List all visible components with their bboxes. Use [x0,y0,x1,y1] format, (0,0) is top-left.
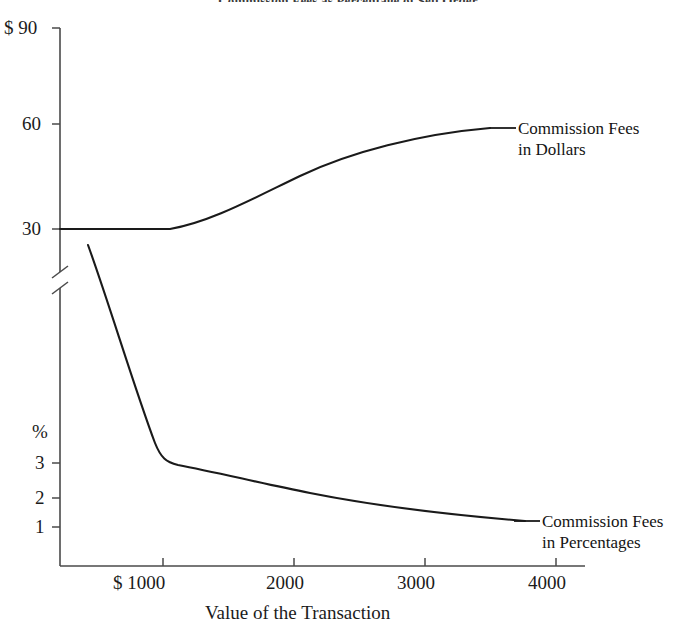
y-axis-label-1: 1 [35,516,45,538]
series-label-dollars-line1: Commission Fees [518,118,639,139]
y-axis-label-3: 3 [35,452,45,474]
x-axis-label-3000: 3000 [397,572,435,594]
series-label-percent: Commission Fees in Percentages [542,511,663,553]
x-axis-label-4000: 4000 [528,572,566,594]
series-label-percent-line2: in Percentages [542,532,663,553]
series-label-dollars-line2: in Dollars [518,139,639,160]
y-axis-label-2: 2 [35,487,45,509]
x-axis-caption: Value of the Transaction [205,602,390,624]
y-axis-label-percent-symbol: % [32,421,48,443]
series-label-percent-line1: Commission Fees [542,511,663,532]
y-axis-label-60: 60 [22,113,41,135]
x-axis-label-2000: 2000 [266,572,304,594]
y-axis-label-30: 30 [22,218,41,240]
series-line-percent [88,245,525,521]
series-label-dollars: Commission Fees in Dollars [518,118,639,160]
series-line-dollars [60,128,490,229]
chart-figure: Commission Fees as Percentage of Sell Or… [0,0,696,630]
y-axis-label-90: $ 90 [4,17,37,39]
x-axis-label-1000: $ 1000 [113,572,165,594]
